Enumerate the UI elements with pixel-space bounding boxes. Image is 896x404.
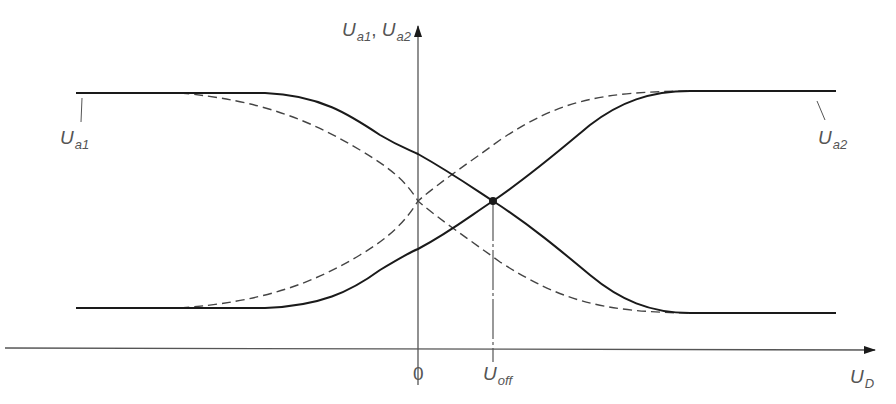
offset-voltage-label: Uoff: [483, 364, 512, 387]
origin-label: 0: [413, 364, 424, 383]
ua1-curve: [76, 93, 836, 313]
ua2-label: Ua2: [818, 128, 847, 151]
x-axis: [5, 348, 875, 350]
transfer-characteristic-diagram: Ua1, Ua2 Ua1 Ua2 0 Uoff UD: [0, 0, 896, 404]
ua1-leader-line: [81, 98, 82, 122]
ua1-label: Ua1: [60, 128, 89, 151]
ua2-ideal-dashed-curve: [180, 91, 690, 308]
x-axis-label: UD: [850, 367, 874, 390]
ua2-leader-line: [817, 101, 825, 120]
plot-canvas: [0, 0, 896, 404]
y-axis-label: Ua1, Ua2: [342, 20, 411, 43]
ua1-ideal-dashed-curve: [180, 93, 690, 313]
ua2-curve: [76, 91, 836, 308]
offset-intersection-point: [489, 197, 497, 205]
